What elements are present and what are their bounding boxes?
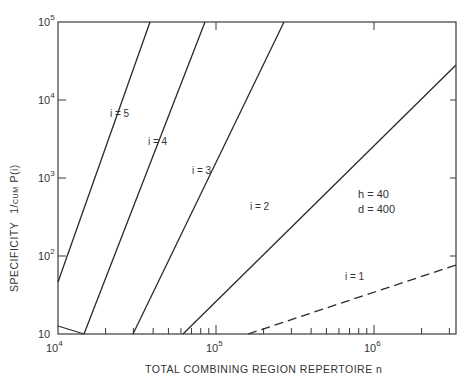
x-axis-ticks [106, 22, 450, 334]
curve-i5 [58, 22, 150, 282]
svg-text:106: 106 [364, 339, 381, 354]
svg-text:102: 102 [38, 247, 55, 262]
curves [58, 22, 456, 334]
svg-text:i = 4: i = 4 [148, 136, 168, 147]
x-axis-title: TOTAL COMBINING REGION REPERTOIRE n [145, 363, 382, 375]
curve-i4-main [84, 22, 205, 334]
svg-text:i = 3: i = 3 [192, 165, 212, 176]
svg-text:d = 400: d = 400 [358, 203, 395, 215]
svg-text:10: 10 [38, 328, 50, 340]
plot-frame [58, 22, 456, 334]
svg-text:i = 1: i = 1 [345, 271, 365, 282]
curve-i3 [133, 22, 284, 334]
x-tick-labels: 104 105 106 [46, 339, 381, 354]
svg-text:i = 5: i = 5 [110, 108, 130, 119]
svg-text:i = 2: i = 2 [250, 201, 270, 212]
svg-text:104: 104 [38, 91, 55, 106]
y-tick-labels: 105 104 103 102 10 [38, 13, 55, 340]
curve-i4 [58, 326, 84, 334]
svg-text:105: 105 [206, 339, 223, 354]
y-axis-title: SPECIFICITY1/CUMP(i) [8, 164, 20, 292]
curve-labels: i = 5 i = 4 i = 3 i = 2 i = 1 [110, 108, 365, 282]
parameters: h = 40 d = 400 [358, 188, 395, 215]
svg-text:103: 103 [38, 169, 55, 184]
svg-text:SPECIFICITY1/CUMP(i): SPECIFICITY1/CUMP(i) [8, 164, 20, 292]
svg-text:h = 40: h = 40 [358, 188, 389, 200]
svg-text:104: 104 [46, 339, 63, 354]
svg-text:105: 105 [38, 13, 55, 28]
curve-i2 [183, 65, 456, 334]
chart: 105 104 103 102 10 104 105 106 TOTAL COM… [0, 0, 471, 384]
